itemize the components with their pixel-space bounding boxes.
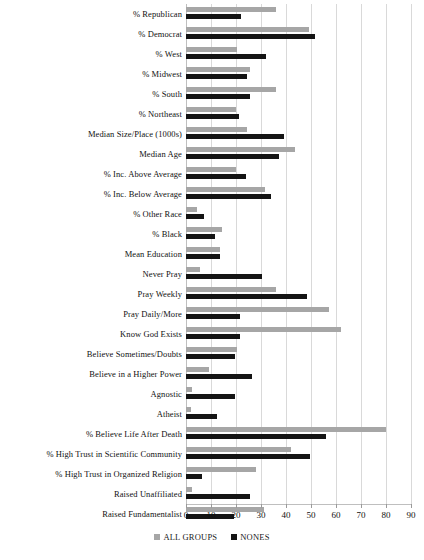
- chart-row: % Inc. Below Average: [0, 184, 424, 204]
- category-label: % High Trust in Organized Religion: [0, 469, 186, 479]
- bar-all-groups: [186, 207, 197, 212]
- bar-all-groups: [186, 367, 209, 372]
- bar-group: [186, 344, 418, 364]
- x-tick: [336, 504, 337, 508]
- category-label: % Other Race: [0, 209, 186, 219]
- bar-all-groups: [186, 67, 250, 72]
- category-label: Know God Exists: [0, 329, 186, 339]
- chart-row: % Other Race: [0, 204, 424, 224]
- category-label: % High Trust in Scientific Community: [0, 449, 186, 459]
- chart-row: Median Size/Place (1000s): [0, 124, 424, 144]
- bar-nones: [186, 414, 217, 419]
- chart-row: Pray Weekly: [0, 284, 424, 304]
- bar-group: [186, 284, 418, 304]
- bar-nones: [186, 14, 241, 19]
- legend-entry: NONES: [231, 532, 269, 542]
- category-label: Pray Daily/More: [0, 309, 186, 319]
- chart-row: % Democrat: [0, 24, 424, 44]
- bar-group: [186, 4, 418, 24]
- bar-all-groups: [186, 127, 247, 132]
- chart-row: % Black: [0, 224, 424, 244]
- chart-row: Never Pray: [0, 264, 424, 284]
- bar-all-groups: [186, 447, 291, 452]
- bar-nones: [186, 114, 239, 119]
- bar-group: [186, 304, 418, 324]
- bar-all-groups: [186, 167, 236, 172]
- bar-all-groups: [186, 27, 309, 32]
- category-label: % Democrat: [0, 29, 186, 39]
- legend-label: NONES: [240, 532, 269, 542]
- bar-group: [186, 224, 418, 244]
- category-label: Never Pray: [0, 269, 186, 279]
- category-label: % Inc. Above Average: [0, 169, 186, 179]
- bar-all-groups: [186, 487, 192, 492]
- bar-nones: [186, 354, 235, 359]
- bar-all-groups: [186, 267, 200, 272]
- bar-all-groups: [186, 247, 220, 252]
- category-label: Raised Fundamentalist: [0, 509, 186, 519]
- category-label: Median Age: [0, 149, 186, 159]
- bar-nones: [186, 214, 204, 219]
- bar-group: [186, 124, 418, 144]
- category-label: % Republican: [0, 9, 186, 19]
- bar-nones: [186, 154, 279, 159]
- bar-group: [186, 404, 418, 424]
- bar-nones: [186, 174, 246, 179]
- x-tick: [211, 504, 212, 508]
- bar-nones: [186, 374, 252, 379]
- chart-row: Know God Exists: [0, 324, 424, 344]
- bar-group: [186, 144, 418, 164]
- category-label: % South: [0, 89, 186, 99]
- x-tick: [411, 504, 412, 508]
- bar-group: [186, 104, 418, 124]
- category-label: Believe in a Higher Power: [0, 369, 186, 379]
- bar-nones: [186, 474, 202, 479]
- bar-group: [186, 244, 418, 264]
- bar-all-groups: [186, 187, 265, 192]
- x-tick-label: 90: [396, 510, 424, 521]
- bar-group: [186, 384, 418, 404]
- x-tick: [186, 504, 187, 508]
- chart-row: % Inc. Above Average: [0, 164, 424, 184]
- bar-nones: [186, 74, 247, 79]
- x-tick: [361, 504, 362, 508]
- bar-nones: [186, 394, 235, 399]
- x-tick: [286, 504, 287, 508]
- bar-group: [186, 424, 418, 444]
- bar-nones: [186, 494, 250, 499]
- category-label: % Black: [0, 229, 186, 239]
- bar-group: [186, 324, 418, 344]
- legend-label: ALL GROUPS: [163, 532, 217, 542]
- bar-all-groups: [186, 227, 222, 232]
- x-axis-line: [186, 504, 412, 505]
- chart-row: Atheist: [0, 404, 424, 424]
- x-tick: [311, 504, 312, 508]
- bar-all-groups: [186, 387, 192, 392]
- category-label: Pray Weekly: [0, 289, 186, 299]
- bar-group: [186, 24, 418, 44]
- chart-rows: % Republican% Democrat% West% Midwest% S…: [0, 4, 424, 504]
- bar-nones: [186, 434, 326, 439]
- chart-row: % Believe Life After Death: [0, 424, 424, 444]
- bar-all-groups: [186, 407, 191, 412]
- bar-all-groups: [186, 147, 295, 152]
- bar-nones: [186, 254, 220, 259]
- bar-nones: [186, 274, 262, 279]
- category-label: % Believe Life After Death: [0, 429, 186, 439]
- bar-all-groups: [186, 427, 386, 432]
- bar-all-groups: [186, 347, 237, 352]
- bar-all-groups: [186, 467, 256, 472]
- bar-all-groups: [186, 47, 237, 52]
- legend-entry: ALL GROUPS: [154, 532, 217, 542]
- bar-all-groups: [186, 107, 236, 112]
- bar-all-groups: [186, 327, 341, 332]
- category-label: % Inc. Below Average: [0, 189, 186, 199]
- category-label: % Midwest: [0, 69, 186, 79]
- bar-chart: % Republican% Democrat% West% Midwest% S…: [0, 0, 424, 560]
- bar-group: [186, 444, 418, 464]
- chart-row: % West: [0, 44, 424, 64]
- chart-row: % Republican: [0, 4, 424, 24]
- category-label: Atheist: [0, 409, 186, 419]
- bar-group: [186, 84, 418, 104]
- chart-row: Median Age: [0, 144, 424, 164]
